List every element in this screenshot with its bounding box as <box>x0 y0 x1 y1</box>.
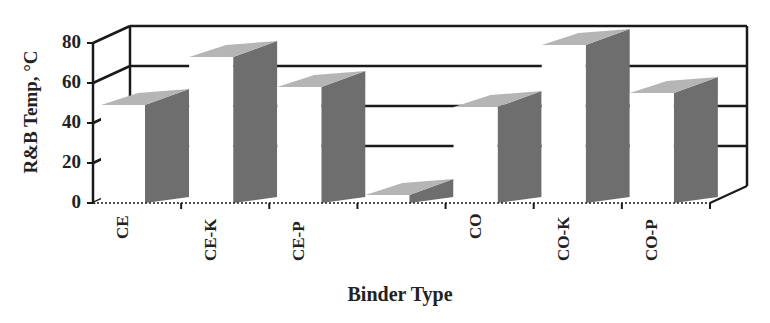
bar-side <box>498 91 542 203</box>
bar-front <box>101 105 145 203</box>
chart: R&B Temp, °C Binder Type 020406080 CECE-… <box>0 0 770 323</box>
x-axis-label: Binder Type <box>300 283 500 306</box>
plot-area <box>0 0 770 323</box>
x-category-label: CO-P <box>642 219 662 261</box>
gridline-side <box>93 66 130 83</box>
bar-front <box>277 87 321 203</box>
bar-front <box>630 93 674 203</box>
bar-side <box>321 71 365 203</box>
x-category-label: CE-K <box>201 219 221 262</box>
gridline-side <box>93 26 130 43</box>
bar-side <box>674 77 718 203</box>
x-category-label: CO-K <box>554 217 574 261</box>
bar-side <box>145 89 189 203</box>
x-category-label: CO <box>466 214 486 240</box>
y-tick-label: 60 <box>51 71 81 93</box>
y-axis-label: R&B Temp, °C <box>20 42 44 182</box>
y-tick-label: 20 <box>51 151 81 173</box>
bar-side <box>586 29 630 203</box>
bar-front <box>189 57 233 203</box>
x-category-label: CE <box>113 215 133 239</box>
y-tick-label: 80 <box>51 31 81 53</box>
bar-front <box>542 45 586 203</box>
bar-front <box>454 107 498 203</box>
x-category-label: CE-P <box>289 221 309 261</box>
bar-side <box>233 41 277 203</box>
y-tick-label: 40 <box>51 111 81 133</box>
y-tick-label: 0 <box>51 191 81 213</box>
